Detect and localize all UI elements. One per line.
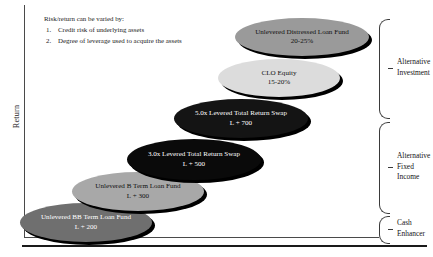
y-axis-label: Return <box>12 87 21 147</box>
ellipse-body: Unlevered Distressed Loan Fund20-25% <box>235 18 369 56</box>
brace-nub <box>388 68 393 69</box>
x-axis-line <box>22 245 427 247</box>
note-item-number: 1. <box>46 24 54 35</box>
category-bracket-alternative-investment: AlternativeInvestment <box>379 19 433 117</box>
ellipse-label-secondary: L + 200 <box>75 223 97 232</box>
note-item-text: Degree of leverage used to acquire the a… <box>58 35 182 46</box>
ellipse-node-three-x-levered-total-return-swap[interactable]: 3.0x Levered Total Return SwapL + 500 <box>127 139 261 180</box>
ellipse-body: CLO Equity15-20% <box>218 59 340 97</box>
category-label: AlternativeInvestment <box>397 57 430 78</box>
note-item-text: Credit risk of underlying assets <box>58 24 144 35</box>
ellipse-label-primary: Unlevered BB Term Loan Fund <box>41 213 131 222</box>
ellipse-label-secondary: L + 300 <box>127 192 149 201</box>
curly-brace-icon <box>379 122 390 214</box>
ellipse-label-secondary: 20-25% <box>291 37 313 46</box>
risk-return-diagram: Return Risk/return can be varied by: 1. … <box>0 0 433 257</box>
category-label-line2: Investment <box>397 68 430 79</box>
ellipse-label-secondary: 15-20% <box>268 78 290 87</box>
category-bracket-alternative-fixed-income: AlternativeFixedIncome <box>379 122 433 212</box>
curly-brace-icon <box>379 216 390 244</box>
category-label-line1: Alternative <box>397 57 430 68</box>
ellipse-label-primary: Unlevered Distressed Loan Fund <box>255 28 349 37</box>
brace-nub <box>388 167 393 168</box>
ellipse-node-five-x-levered-total-return-swap[interactable]: 5.0x Levered Total Return SwapL + 700 <box>174 99 308 138</box>
category-label: CashEnhancer <box>397 218 425 239</box>
category-label: AlternativeFixedIncome <box>397 151 430 183</box>
category-label-line2: Enhancer <box>397 229 425 240</box>
ellipse-label-primary: CLO Equity <box>262 69 297 78</box>
curly-brace-icon <box>379 19 390 119</box>
note-item-number: 2. <box>46 35 54 46</box>
ellipse-label-secondary: L + 500 <box>183 160 205 169</box>
brace-nub <box>388 229 393 230</box>
category-label-line1: Alternative <box>397 151 430 162</box>
category-label-line1: Cash <box>397 218 425 229</box>
ellipse-body: 5.0x Levered Total Return SwapL + 700 <box>174 99 308 138</box>
ellipse-label-primary: 3.0x Levered Total Return Swap <box>148 150 240 159</box>
ellipse-label-primary: 5.0x Levered Total Return Swap <box>195 109 287 118</box>
ellipse-node-unlevered-distressed-loan-fund[interactable]: Unlevered Distressed Loan Fund20-25% <box>235 18 369 56</box>
category-label-line2: Fixed <box>397 162 430 173</box>
ellipse-label-primary: Unlevered B Term Loan Fund <box>95 182 180 191</box>
category-bracket-cash-enhancer: CashEnhancer <box>379 216 433 242</box>
ellipse-body: 3.0x Levered Total Return SwapL + 500 <box>127 139 261 180</box>
ellipse-label-secondary: L + 700 <box>230 119 252 128</box>
ellipse-node-clo-equity[interactable]: CLO Equity15-20% <box>218 59 340 97</box>
category-label-line3: Income <box>397 172 430 183</box>
